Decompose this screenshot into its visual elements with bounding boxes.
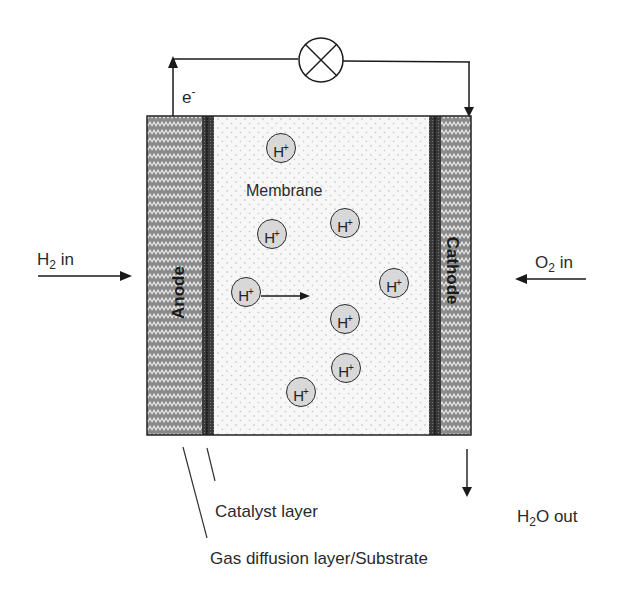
h-plus-ion: H+ — [266, 133, 296, 163]
h2-in-label: H2 in — [37, 251, 74, 271]
o2-in-arrow-icon — [515, 274, 527, 284]
h-plus-ion: H+ — [231, 277, 261, 307]
h-plus-ion: H+ — [330, 208, 360, 238]
electron-arrow-icon — [168, 56, 178, 68]
anode-catalyst-layer — [202, 116, 214, 435]
h-plus-ion: H+ — [331, 353, 361, 383]
electron-label: e- — [182, 86, 195, 106]
h2-in-arrow-icon — [120, 271, 132, 281]
gdl-leader-line — [183, 447, 207, 538]
anode-label: Anode — [170, 266, 187, 319]
cathode-label: Cathode — [444, 237, 461, 305]
h-plus-ion: H+ — [379, 268, 409, 298]
h-plus-ion: H+ — [330, 304, 360, 334]
gas-diffusion-layer-label: Gas diffusion layer/Substrate — [210, 550, 428, 567]
o2-in-label: O2 in — [535, 254, 573, 274]
h-plus-ion: H+ — [286, 377, 316, 407]
h2o-out-label: H2O out — [517, 508, 578, 528]
h2o-out-arrow-icon — [462, 487, 472, 497]
catalyst-leader-line — [207, 448, 215, 481]
membrane-label: Membrane — [246, 183, 322, 199]
h-plus-ion: H+ — [257, 219, 287, 249]
lamp-icon — [299, 38, 343, 82]
catalyst-layer-label: Catalyst layer — [215, 503, 318, 520]
